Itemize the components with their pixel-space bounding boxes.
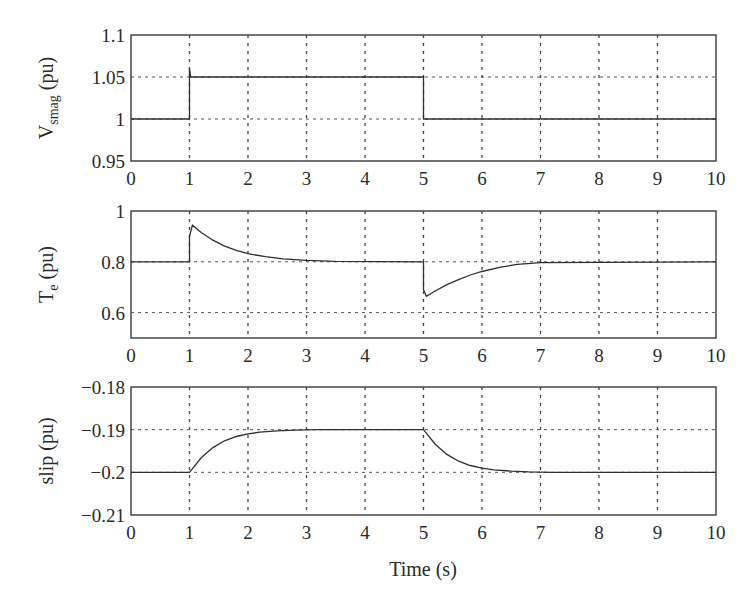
y-tick-label: −0.21 <box>81 505 125 526</box>
x-tick-label: 9 <box>653 345 663 366</box>
x-tick-label: 3 <box>302 345 312 366</box>
x-tick-label: 5 <box>419 522 429 543</box>
x-tick-label: 8 <box>594 345 604 366</box>
x-tick-label: 5 <box>419 345 429 366</box>
figure: 0.9511.051.1012345678910Vsmag (pu)0.60.8… <box>0 0 756 597</box>
x-axis-label: Time (s) <box>389 558 457 581</box>
x-tick-label: 8 <box>594 168 604 189</box>
y-axis-label: slip (pu) <box>35 417 58 484</box>
x-tick-label: 3 <box>302 168 312 189</box>
y-tick-label: −0.2 <box>91 462 125 483</box>
x-tick-label: 8 <box>594 522 604 543</box>
y-tick-label: −0.19 <box>81 420 125 441</box>
te-plot: 0.60.81012345678910Te (pu) <box>35 201 726 366</box>
x-tick-label: 10 <box>707 345 726 366</box>
x-tick-label: 7 <box>536 168 546 189</box>
vsmag-plot: 0.9511.051.1012345678910Vsmag (pu) <box>35 25 726 189</box>
y-tick-label: 0.8 <box>101 252 125 273</box>
x-tick-label: 1 <box>185 522 195 543</box>
x-tick-label: 9 <box>653 168 663 189</box>
x-tick-label: 1 <box>185 345 195 366</box>
x-tick-label: 6 <box>477 168 487 189</box>
x-tick-label: 6 <box>477 345 487 366</box>
y-tick-label: −0.18 <box>81 377 125 398</box>
x-tick-label: 4 <box>360 168 370 189</box>
x-tick-label: 3 <box>302 522 312 543</box>
x-tick-label: 4 <box>360 345 370 366</box>
y-axis-label: Te (pu) <box>35 246 61 303</box>
x-tick-label: 10 <box>707 522 726 543</box>
y-tick-label: 1 <box>116 201 126 222</box>
subplots: 0.9511.051.1012345678910Vsmag (pu)0.60.8… <box>35 25 726 543</box>
x-tick-label: 7 <box>536 345 546 366</box>
x-tick-label: 4 <box>360 522 370 543</box>
slip-plot: −0.21−0.2−0.19−0.18012345678910slip (pu) <box>35 377 726 543</box>
y-tick-label: 0.95 <box>92 151 125 172</box>
x-tick-label: 10 <box>707 168 726 189</box>
x-tick-label: 0 <box>126 522 136 543</box>
x-tick-label: 5 <box>419 168 429 189</box>
x-tick-label: 7 <box>536 522 546 543</box>
y-tick-label: 0.6 <box>101 303 125 324</box>
x-tick-label: 2 <box>243 522 253 543</box>
x-tick-label: 9 <box>653 522 663 543</box>
x-tick-label: 6 <box>477 522 487 543</box>
x-tick-label: 0 <box>126 168 136 189</box>
x-tick-label: 2 <box>243 168 253 189</box>
y-tick-label: 1.1 <box>101 25 125 46</box>
x-tick-label: 1 <box>185 168 195 189</box>
y-axis-label: Vsmag (pu) <box>35 57 61 139</box>
y-tick-label: 1 <box>116 109 126 130</box>
x-tick-label: 0 <box>126 345 136 366</box>
x-tick-label: 2 <box>243 345 253 366</box>
y-tick-label: 1.05 <box>92 67 125 88</box>
